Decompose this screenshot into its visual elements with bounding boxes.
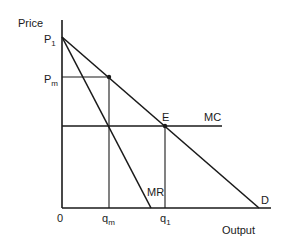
monopoly-diagram: Price Output 0 P1 Pm qm q1 MR MC E D xyxy=(0,0,285,250)
mr-label: MR xyxy=(147,186,164,198)
q1-label: q1 xyxy=(160,212,171,227)
demand-curve xyxy=(62,37,259,208)
y-axis-label: Price xyxy=(18,17,43,29)
monopoly-point xyxy=(107,75,111,79)
equilibrium-label: E xyxy=(162,111,169,123)
pm-label: Pm xyxy=(44,73,58,88)
x-axis-label: Output xyxy=(222,224,255,236)
qm-label: qm xyxy=(102,212,115,227)
equilibrium-point xyxy=(163,124,167,128)
mc-label: MC xyxy=(204,111,221,123)
demand-label: D xyxy=(261,194,269,206)
marginal-revenue-curve xyxy=(62,37,151,208)
origin-label: 0 xyxy=(57,212,63,224)
p1-label: P1 xyxy=(44,33,56,48)
